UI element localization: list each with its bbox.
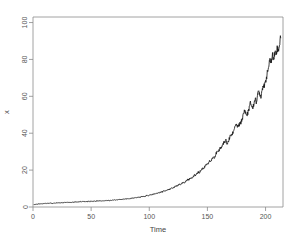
x-tick-label: 0 [31,213,35,220]
plot-container: 050100150200020406080100 Time x [0,0,298,242]
x-tick-label: 200 [260,213,272,220]
y-tick-label: 60 [22,92,29,100]
x-axis-title: Time [150,225,166,234]
y-tick-label: 100 [22,17,29,29]
x-tick-label: 50 [87,213,95,220]
y-tick-label: 0 [22,205,29,209]
time-series-chart: 050100150200020406080100 Time x [0,0,298,242]
x-tick-label: 100 [143,213,155,220]
y-axis-title: x [2,110,11,114]
data-series [34,36,281,205]
x-tick-label: 150 [202,213,214,220]
series-line [34,36,281,205]
axes: 050100150200020406080100 [22,17,284,220]
y-tick-label: 80 [22,55,29,63]
y-tick-label: 40 [22,129,29,137]
y-tick-label: 20 [22,166,29,174]
